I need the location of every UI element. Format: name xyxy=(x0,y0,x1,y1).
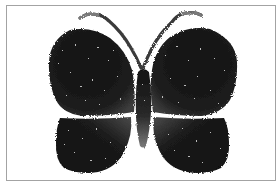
butterfly-illustration xyxy=(0,0,278,185)
upper-wing-right xyxy=(151,28,237,116)
lower-wing-left xyxy=(56,117,131,173)
butterfly-body xyxy=(136,69,152,148)
lower-wing-right xyxy=(153,117,229,173)
upper-wing-left xyxy=(49,29,135,116)
